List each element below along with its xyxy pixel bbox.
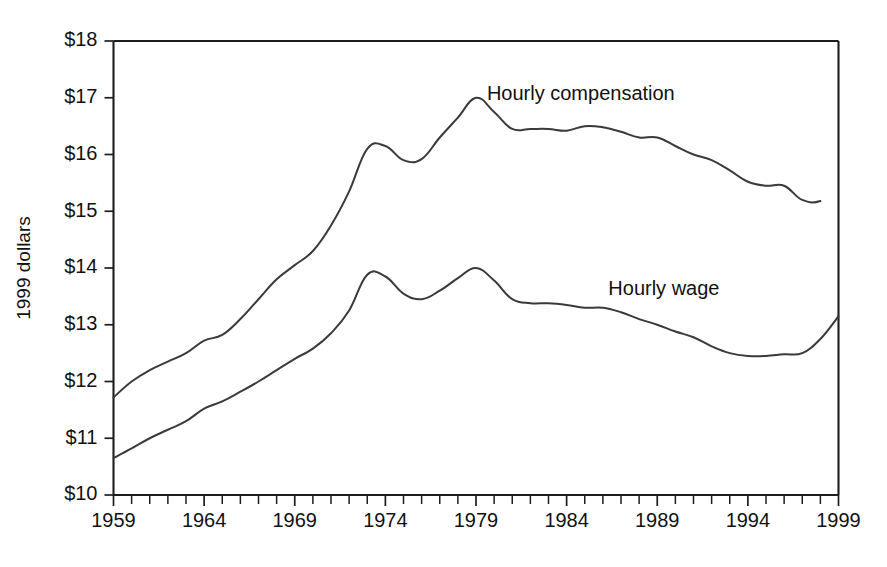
line-chart-canvas: 1999 dollars $18$17$16$15$14$13$12$11$10… bbox=[0, 0, 887, 567]
x-axis-tick-label: 1974 bbox=[363, 509, 408, 531]
y-axis-tick-label: $18 bbox=[64, 28, 97, 50]
y-axis-tick-label: $16 bbox=[64, 142, 97, 164]
x-axis-tick-label: 1984 bbox=[544, 509, 589, 531]
y-axis-tick-label: $15 bbox=[64, 199, 97, 221]
series-line-hourly-compensation bbox=[114, 98, 821, 398]
series-inline-labels: Hourly compensationHourly wage bbox=[487, 82, 720, 299]
chart-figure: 1999 dollars $18$17$16$15$14$13$12$11$10… bbox=[0, 0, 887, 567]
y-axis-title: 1999 dollars bbox=[13, 216, 34, 320]
x-axis-tick-label: 1994 bbox=[726, 509, 771, 531]
series-label-hourly-compensation: Hourly compensation bbox=[487, 82, 675, 104]
x-axis-tick-label: 1959 bbox=[91, 509, 136, 531]
y-axis-tick-label: $17 bbox=[64, 85, 97, 107]
x-axis-tick-label: 1999 bbox=[816, 509, 861, 531]
y-axis-tick-label: $12 bbox=[64, 369, 97, 391]
x-axis-tick-label: 1964 bbox=[182, 509, 227, 531]
series-label-hourly-wage: Hourly wage bbox=[608, 277, 719, 299]
x-axis-tick-label: 1979 bbox=[454, 509, 499, 531]
x-axis-tick-labels: 195919641969197419791984198919941999 bbox=[91, 509, 861, 531]
series-line-hourly-wage bbox=[114, 268, 839, 458]
y-axis-tick-marks bbox=[105, 41, 114, 495]
y-axis-tick-label: $11 bbox=[66, 426, 98, 448]
x-axis-tick-marks bbox=[114, 495, 839, 506]
y-axis-tick-label: $14 bbox=[64, 255, 97, 277]
y-axis-tick-label: $13 bbox=[64, 312, 97, 334]
y-axis-tick-label: $10 bbox=[64, 482, 97, 504]
data-series-group bbox=[114, 98, 839, 458]
y-axis-tick-labels: $18$17$16$15$14$13$12$11$10 bbox=[64, 28, 97, 504]
x-axis-tick-label: 1989 bbox=[635, 509, 680, 531]
x-axis-tick-label: 1969 bbox=[273, 509, 318, 531]
